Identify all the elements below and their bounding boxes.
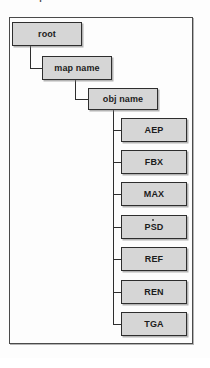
node-leaf-ref[interactable]: REF	[121, 247, 187, 271]
node-leaf-psd-label: PSD	[145, 223, 164, 232]
clipped-heading-text: and sequences rendered from the file	[9, 0, 201, 3]
node-map-name-label: map name	[54, 64, 99, 73]
node-obj-name-label: obj name	[103, 95, 143, 104]
connector-stub-psd	[113, 227, 121, 228]
node-leaf-psd[interactable]: PSD	[121, 215, 187, 239]
diagram-page: and sequences rendered from the file roo…	[0, 0, 210, 368]
connector-map-to-obj-horizontal	[75, 99, 89, 100]
node-leaf-aep[interactable]: AEP	[121, 118, 187, 142]
node-obj-name[interactable]: obj name	[88, 88, 158, 110]
connector-stub-ref	[113, 259, 121, 260]
node-leaf-tga-label: TGA	[144, 320, 163, 329]
connector-root-to-map-vertical	[30, 46, 31, 68]
node-root[interactable]: root	[12, 22, 82, 46]
node-leaf-max[interactable]: MAX	[121, 182, 187, 206]
node-map-name[interactable]: map name	[42, 56, 112, 80]
node-leaf-ref-label: REF	[145, 255, 163, 264]
node-root-label: root	[38, 30, 56, 39]
node-leaf-ren[interactable]: REN	[121, 280, 187, 304]
connector-stub-aep	[113, 130, 121, 131]
node-leaf-ren-label: REN	[144, 288, 163, 297]
page-bottom-edge	[0, 358, 210, 368]
node-leaf-aep-label: AEP	[145, 126, 164, 135]
node-leaf-fbx[interactable]: FBX	[121, 150, 187, 174]
node-leaf-max-label: MAX	[144, 190, 164, 199]
connector-map-to-obj-vertical	[75, 80, 76, 99]
node-leaf-fbx-label: FBX	[145, 158, 163, 167]
scan-speck-artifact	[152, 219, 154, 221]
connector-stub-fbx	[113, 162, 121, 163]
connector-stub-ren	[113, 292, 121, 293]
connector-stub-tga	[113, 324, 121, 325]
connector-stub-max	[113, 194, 121, 195]
node-leaf-tga[interactable]: TGA	[121, 312, 187, 336]
